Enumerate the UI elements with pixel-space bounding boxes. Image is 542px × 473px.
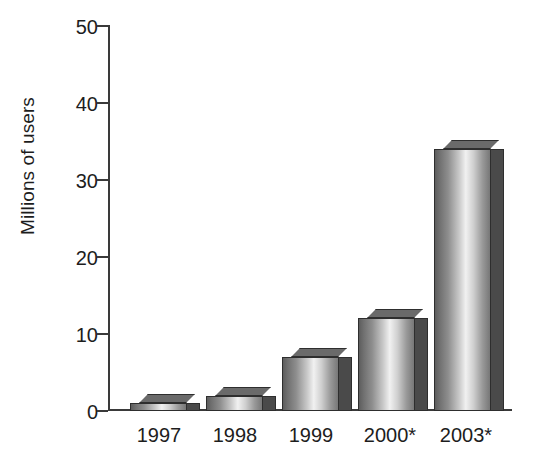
bar-top-1999: [291, 348, 347, 357]
bar-side-2003: [490, 149, 504, 411]
x-tick-label-2003: 2003*: [424, 424, 508, 447]
y-tick-label-40: 40: [52, 94, 98, 114]
bar-front-1999: [282, 357, 339, 411]
bar-top-2000: [367, 309, 423, 318]
y-tick-label-30: 30: [52, 171, 98, 191]
bar-side-1997: [186, 403, 200, 411]
bar-top-2003: [443, 140, 499, 149]
y-tick-mark-40: [97, 102, 108, 104]
bar-side-1999: [338, 357, 352, 411]
x-tick-label-1998: 1998: [200, 424, 270, 447]
y-tick-label-20: 20: [52, 248, 98, 268]
bar-front-2000: [358, 318, 415, 411]
x-tick-label-1999: 1999: [276, 424, 346, 447]
y-tick-mark-50: [97, 25, 108, 27]
y-tick-mark-0: [97, 410, 108, 412]
bar-side-2000: [414, 318, 428, 411]
bar-top-1998: [215, 387, 271, 396]
bar-top-1997: [139, 394, 195, 403]
bar-front-1998: [206, 396, 263, 411]
bar-front-2003: [434, 149, 491, 411]
x-tick-label-1997: 1997: [124, 424, 194, 447]
bar-chart-figure: Millions of users 50 40 30 20 10 0: [0, 0, 542, 473]
y-tick-label-10: 10: [52, 325, 98, 345]
y-tick-mark-10: [97, 333, 108, 335]
y-tick-mark-20: [97, 256, 108, 258]
x-tick-label-2000: 2000*: [348, 424, 432, 447]
bar-front-1997: [130, 403, 187, 411]
bar-side-1998: [262, 396, 276, 411]
plot-area: 50 40 30 20 10 0: [0, 0, 542, 473]
y-tick-label-0: 0: [52, 402, 98, 422]
y-axis-line: [108, 25, 110, 411]
y-tick-mark-30: [97, 179, 108, 181]
y-tick-label-50: 50: [52, 17, 98, 37]
